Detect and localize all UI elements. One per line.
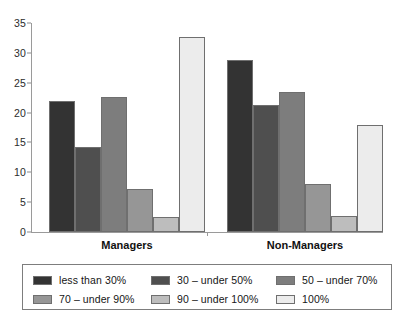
legend-item[interactable]: 100% [276,293,329,305]
legend-item-label: 100% [302,293,329,305]
legend-swatch-icon [151,276,170,285]
bar [101,97,127,232]
bar [357,125,383,232]
legend-grid: less than 30%30 – under 50%50 – under 70… [23,265,391,309]
legend-swatch-icon [276,295,295,304]
bar [75,147,101,232]
bar [179,37,205,232]
bar [127,189,153,232]
bar-chart: 05101520253035 ManagersNon-Managers less… [0,0,414,321]
legend-swatch-icon [276,276,295,285]
legend-item[interactable]: 30 – under 50% [151,274,253,286]
legend: less than 30%30 – under 50%50 – under 70… [22,264,392,310]
legend-item-label: 30 – under 50% [177,274,253,286]
legend-item-label: 50 – under 70% [302,274,378,286]
x-axis-group-label: Non-Managers [267,239,343,251]
legend-item[interactable]: 70 – under 90% [33,293,135,305]
legend-item-label: less than 30% [59,274,126,286]
x-axis-group-label: Managers [101,239,152,251]
plot-area: 05101520253035 ManagersNon-Managers [0,0,414,258]
legend-item[interactable]: less than 30% [33,274,126,286]
bar [279,92,305,232]
bar [49,101,75,232]
bar [305,184,331,232]
bar [227,60,253,232]
legend-item-label: 70 – under 90% [59,293,135,305]
bar [331,216,357,232]
bar [153,217,179,232]
legend-item[interactable]: 90 – under 100% [151,293,258,305]
legend-swatch-icon [33,276,52,285]
legend-swatch-icon [33,295,52,304]
legend-swatch-icon [151,295,170,304]
bar [253,105,279,232]
bars-layer [0,0,414,258]
legend-item-label: 90 – under 100% [177,293,258,305]
legend-item[interactable]: 50 – under 70% [276,274,378,286]
